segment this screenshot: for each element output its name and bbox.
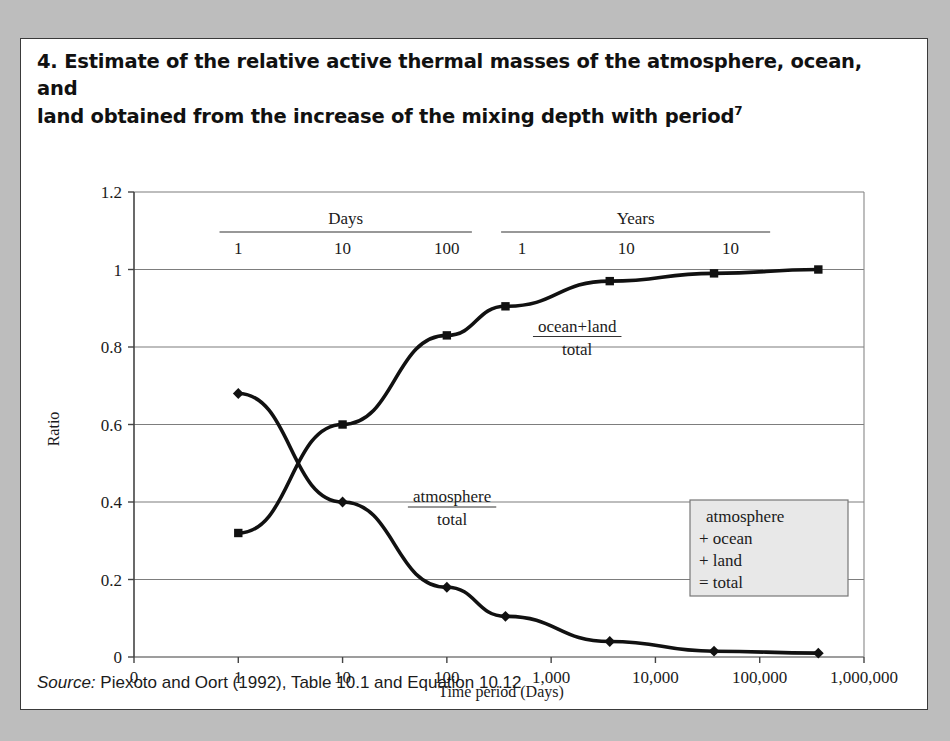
annotation-denominator: total [562, 340, 592, 359]
period-scale-label: Years [617, 209, 655, 228]
period-tick-label: 100 [434, 239, 460, 258]
legend-line: + land [699, 551, 743, 570]
series-marker [710, 269, 718, 277]
y-tick-label: 1 [114, 261, 123, 280]
legend-line: atmosphere [706, 507, 784, 526]
series-marker [606, 277, 614, 285]
y-tick-label: 1.2 [101, 183, 122, 202]
y-axis-title: Ratio [45, 412, 62, 447]
y-axis-ticks: 00.20.40.60.811.2 [101, 183, 134, 667]
series-marker [443, 331, 451, 339]
y-tick-label: 0.6 [101, 416, 122, 435]
series-line [238, 270, 818, 534]
series-marker [709, 646, 720, 657]
x-tick-label: 100,000 [732, 668, 787, 687]
y-tick-label: 0.4 [101, 493, 123, 512]
curve-annotations: ocean+landtotalatmospheretotal [408, 317, 622, 530]
x-tick-label: 1,000,000 [830, 668, 898, 687]
series-marker [233, 388, 244, 399]
source-text: Piexoto and Oort (1992), Table 10.1 and … [96, 673, 522, 692]
y-tick-label: 0.2 [101, 571, 122, 590]
data-series [233, 265, 824, 658]
period-tick-label: 10 [722, 239, 739, 258]
annotation-denominator: total [437, 510, 467, 529]
period-scale-label: Days [328, 209, 363, 228]
period-tick-label: 10 [334, 239, 351, 258]
series-marker [337, 497, 348, 508]
y-tick-label: 0 [114, 648, 123, 667]
legend-line: = total [699, 573, 743, 592]
series-marker [234, 529, 242, 537]
period-tick-label: 10 [618, 239, 635, 258]
period-scale-headers: Days110100Years11010 [220, 209, 771, 258]
page-background: 4. Estimate of the relative active therm… [0, 0, 950, 741]
series-marker [501, 302, 509, 310]
annotation-numerator: ocean+land [538, 317, 617, 336]
period-tick-label: 1 [518, 239, 527, 258]
chart-canvas: 00.20.40.60.811.2 01101001,00010,000100,… [21, 39, 929, 711]
series-marker [814, 265, 822, 273]
source-note: Source: Piexoto and Oort (1992), Table 1… [37, 673, 522, 693]
legend-box: atmosphere+ ocean+ land= total [690, 500, 848, 596]
series-marker [441, 582, 452, 593]
x-tick-label: 10,000 [632, 668, 679, 687]
series-marker [500, 611, 511, 622]
series-marker [604, 636, 615, 647]
period-tick-label: 1 [234, 239, 243, 258]
source-label: Source: [37, 673, 96, 692]
series-marker [338, 420, 346, 428]
figure-frame: 4. Estimate of the relative active therm… [20, 38, 928, 710]
y-tick-label: 0.8 [101, 338, 122, 357]
annotation-numerator: atmosphere [413, 487, 491, 506]
legend-line: + ocean [699, 529, 753, 548]
